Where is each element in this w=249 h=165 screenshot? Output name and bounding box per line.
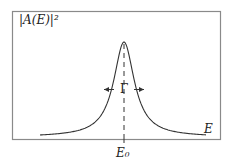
e0-label: E₀ — [116, 146, 130, 160]
y-axis-label: |A(E)|² — [19, 13, 59, 27]
x-axis-label: E — [204, 122, 213, 136]
arrow-right-icon — [139, 87, 144, 92]
arrow-left-icon — [104, 87, 109, 92]
gamma-width-label: Γ — [120, 82, 128, 96]
plot-frame — [13, 12, 221, 140]
lorentzian-figure: |A(E)|² E E₀ Γ — [0, 0, 249, 165]
